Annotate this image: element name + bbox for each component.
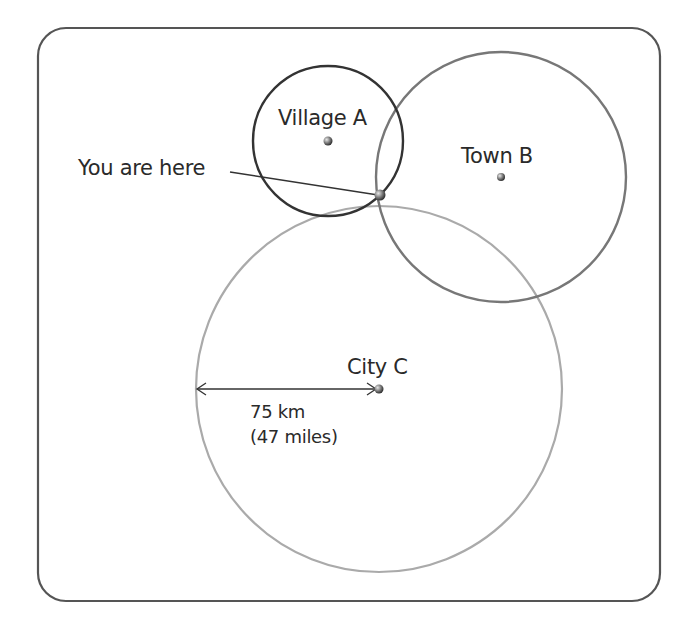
distance-km-label: 75 km: [250, 403, 305, 421]
distance-miles-label: (47 miles): [250, 428, 338, 446]
trilateration-diagram: [0, 0, 692, 639]
you-are-here-label: You are here: [78, 158, 205, 179]
city-c-label: City C: [347, 357, 408, 378]
village-a-dot: [324, 137, 333, 146]
you-are-here-dot: [375, 190, 386, 201]
village-a-label: Village A: [278, 108, 367, 129]
city-c-dot: [375, 385, 384, 394]
town-b-dot: [497, 173, 505, 181]
town-b-label: Town B: [461, 146, 533, 167]
